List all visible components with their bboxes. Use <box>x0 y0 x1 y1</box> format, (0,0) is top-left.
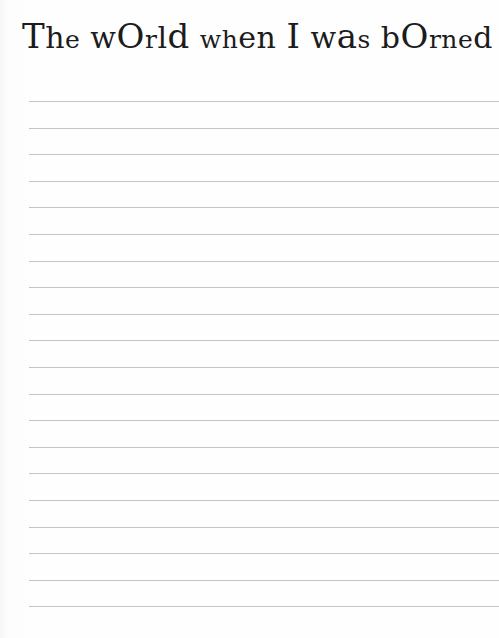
writing-line <box>29 580 499 581</box>
writing-line <box>29 287 499 288</box>
writing-line <box>29 261 499 262</box>
title-letter: e <box>238 20 256 55</box>
writing-line <box>29 314 499 315</box>
title-letter: e <box>65 25 80 54</box>
writing-line <box>29 207 499 208</box>
writing-line <box>29 394 499 395</box>
writing-line <box>29 340 499 341</box>
title-letter: e <box>458 25 473 54</box>
title-letter: s <box>357 25 370 54</box>
title-letter: r <box>145 25 157 54</box>
writing-line <box>29 473 499 474</box>
title-letter: w <box>310 20 336 55</box>
writing-line <box>29 234 499 235</box>
title-letter: r <box>429 25 441 54</box>
writing-line <box>29 606 499 607</box>
writing-line <box>29 420 499 421</box>
writing-line <box>29 527 499 528</box>
writing-line <box>29 500 499 501</box>
title-letter: w <box>200 25 222 54</box>
writing-line <box>29 101 499 102</box>
title-letter: l <box>157 20 167 55</box>
title-letter: I <box>286 16 300 56</box>
title-letter: a <box>337 16 358 56</box>
writing-line <box>29 553 499 554</box>
title-letter: d <box>473 20 493 55</box>
title-letter: b <box>381 20 401 55</box>
writing-line <box>29 128 499 129</box>
title-letter: w <box>90 20 116 55</box>
title-letter <box>80 20 90 55</box>
title-letter: d <box>167 16 189 56</box>
writing-line <box>29 367 499 368</box>
writing-line <box>29 154 499 155</box>
title-letter: h <box>222 25 239 54</box>
title-letter: O <box>401 16 429 56</box>
writing-line <box>29 181 499 182</box>
title-letter: n <box>257 20 277 55</box>
title-letter <box>276 20 286 55</box>
worksheet-title: The wOrld when I was bOrned <box>22 16 493 56</box>
writing-line <box>29 447 499 448</box>
worksheet-page: The wOrld when I was bOrned <box>0 0 499 638</box>
title-letter <box>190 20 200 55</box>
title-letter <box>300 20 310 55</box>
title-letter: T <box>22 16 45 56</box>
title-letter: n <box>441 25 458 54</box>
title-letter <box>371 20 381 55</box>
title-letter: h <box>45 20 65 55</box>
title-letter: O <box>117 16 145 56</box>
